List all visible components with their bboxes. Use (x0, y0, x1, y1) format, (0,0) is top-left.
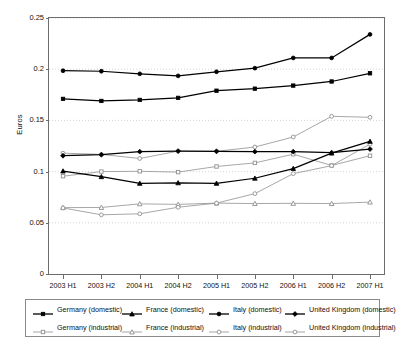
data-point-filled-circle (176, 74, 180, 78)
legend-label: France (domestic) (146, 305, 204, 314)
legend-marker-filled-diamond-icon (284, 305, 306, 315)
y-tick-label: 0.05 (18, 219, 44, 227)
data-point-open-triangle (137, 202, 142, 206)
legend-marker-open-circle-icon (284, 323, 306, 333)
data-point-open-circle (368, 115, 372, 119)
legend-marker-filled-square-icon (32, 305, 54, 315)
legend-item[interactable]: Germany (industrial) (32, 323, 122, 333)
data-point-open-circle (61, 206, 65, 210)
series-united-kingdom-domestic (61, 147, 373, 158)
data-point-open-triangle (291, 201, 296, 205)
data-point-open-circle (330, 114, 334, 118)
data-point-open-circle (99, 213, 103, 217)
data-point-open-circle (330, 164, 334, 168)
y-tick-label: 0.15 (18, 116, 44, 124)
data-point-open-square (61, 175, 64, 178)
data-point-filled-circle (61, 69, 65, 73)
data-point-open-square (100, 170, 103, 173)
data-point-open-square (41, 330, 44, 333)
y-tick-label: 0 (18, 270, 44, 278)
legend-item[interactable]: Germany (domestic) (32, 305, 122, 315)
data-point-filled-square (215, 89, 218, 92)
data-point-open-circle (138, 212, 142, 216)
series-line (63, 73, 370, 101)
legend-item[interactable]: United Kingdom (domestic) (284, 305, 396, 315)
legend-marker-open-circle-icon (208, 323, 230, 333)
x-tick-mark (178, 275, 179, 279)
data-point-filled-circle (217, 312, 221, 316)
series-line (63, 141, 370, 183)
y-tick-label: 0.2 (18, 65, 44, 73)
data-point-open-circle (291, 135, 295, 139)
legend-marker-open-square-icon (32, 323, 54, 333)
legend-label: Germany (industrial) (57, 323, 122, 332)
data-point-filled-diamond (137, 149, 142, 154)
data-point-open-circle (293, 330, 297, 334)
data-point-filled-diamond (252, 149, 257, 154)
data-point-filled-circle (99, 69, 103, 73)
data-point-open-triangle (130, 329, 135, 333)
data-point-filled-circle (253, 66, 257, 70)
legend-marker-filled-triangle-icon (121, 305, 143, 315)
y-tick-label: 0.25 (18, 14, 44, 22)
data-point-filled-circle (215, 70, 219, 74)
data-point-open-circle (253, 192, 257, 196)
data-point-open-square (138, 170, 141, 173)
data-point-open-circle (217, 330, 221, 334)
data-point-open-circle (291, 172, 295, 176)
x-tick-mark (63, 275, 64, 279)
legend-label: France (industrial) (146, 323, 204, 332)
data-point-filled-diamond (214, 149, 219, 154)
data-point-filled-square (330, 80, 333, 83)
data-point-open-triangle (99, 205, 104, 209)
data-point-filled-square (368, 72, 371, 75)
data-point-filled-circle (330, 56, 334, 60)
series-italy-domestic (61, 32, 372, 77)
data-point-filled-square (100, 99, 103, 102)
data-point-open-square (176, 170, 179, 173)
legend-label: Germany (domestic) (57, 305, 122, 314)
legend-item[interactable]: Italy (industrial) (208, 323, 282, 333)
data-point-filled-square (138, 98, 141, 101)
data-point-open-triangle (253, 201, 258, 205)
x-tick-mark (255, 275, 256, 279)
x-axis-ticks: 2003 H12003 H22004 H12004 H22005 H12005 … (48, 275, 385, 297)
series-france-domestic (61, 139, 373, 185)
series-canvas (49, 18, 384, 274)
legend-marker-filled-circle-icon (208, 305, 230, 315)
data-point-open-square (253, 161, 256, 164)
data-point-filled-circle (368, 32, 372, 36)
data-point-filled-square (253, 87, 256, 90)
data-point-filled-diamond (368, 147, 373, 152)
data-point-filled-circle (291, 56, 295, 60)
data-point-filled-square (292, 84, 295, 87)
data-point-filled-diamond (293, 311, 298, 316)
x-tick-mark (370, 275, 371, 279)
x-tick-mark (140, 275, 141, 279)
x-tick-label: 2007 H1 (347, 281, 393, 290)
legend-item[interactable]: Italy (domestic) (208, 305, 282, 315)
legend-item[interactable]: France (domestic) (121, 305, 204, 315)
data-point-filled-diamond (176, 149, 181, 154)
y-tick-label: 0.1 (18, 168, 44, 176)
x-tick-mark (293, 275, 294, 279)
data-point-open-circle (176, 205, 180, 209)
data-point-open-square (368, 154, 371, 157)
data-point-open-square (215, 165, 218, 168)
legend-label: United Kingdom (industrial) (309, 323, 396, 332)
data-point-open-triangle (329, 201, 334, 205)
y-axis-ticks: 00.050.10.150.20.25 (14, 17, 44, 275)
legend-marker-open-triangle-icon (121, 323, 143, 333)
data-point-filled-square (61, 97, 64, 100)
data-point-open-triangle (368, 200, 373, 204)
legend-item[interactable]: France (industrial) (121, 323, 204, 333)
data-point-filled-square (41, 312, 44, 315)
data-point-open-circle (215, 201, 219, 205)
legend-item[interactable]: United Kingdom (industrial) (284, 323, 396, 333)
legend-label: Italy (domestic) (233, 305, 282, 314)
data-point-filled-square (176, 96, 179, 99)
series-germany-domestic (61, 72, 371, 103)
legend-label: Italy (industrial) (233, 323, 282, 332)
plot-area (48, 17, 385, 275)
data-point-open-circle (138, 157, 142, 161)
